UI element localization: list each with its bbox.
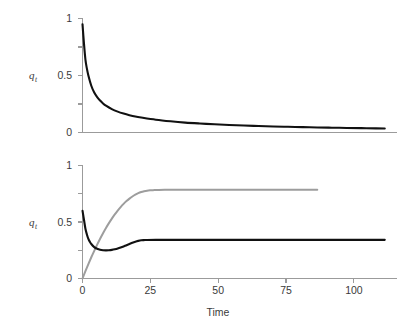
bottom-panel-y-ticks	[78, 166, 83, 279]
bottom-ytick-label-0p5: 0.5	[57, 216, 72, 228]
bottom-panel-x-axis-title: Time	[207, 306, 230, 318]
top-panel-y-ticks	[78, 19, 83, 133]
bottom-xtick-label-100: 100	[345, 284, 363, 296]
bottom-xtick-label-25: 25	[144, 284, 156, 296]
top-ytick-label-0: 0	[66, 126, 72, 138]
top-ylabel-subscript-t: t	[35, 75, 38, 84]
top-panel: 1 0.5 0 q t	[29, 12, 397, 138]
two-panel-line-chart: 1 0.5 0 q t 1	[0, 0, 407, 326]
bottom-ytick-label-1: 1	[66, 159, 72, 171]
top-panel-series-black	[83, 24, 385, 128]
top-ytick-label-0p5: 0.5	[57, 69, 72, 81]
bottom-ytick-label-0: 0	[66, 272, 72, 284]
top-panel-y-axis-title: q t	[29, 69, 38, 84]
bottom-xtick-label-50: 50	[212, 284, 224, 296]
bottom-panel-x-ticks	[83, 279, 354, 284]
bottom-ylabel-subscript-t: t	[35, 222, 38, 231]
bottom-xtick-label-0: 0	[80, 284, 86, 296]
bottom-panel-series-black	[83, 211, 385, 251]
bottom-panel-series-gray	[83, 190, 318, 279]
figure-container: 1 0.5 0 q t 1	[0, 0, 407, 326]
bottom-panel-y-axis-title: q t	[29, 216, 38, 231]
bottom-panel: 1 0.5 0 q t 0 25 50 75 100 Time	[29, 159, 397, 318]
bottom-xtick-label-75: 75	[280, 284, 292, 296]
top-ytick-label-1: 1	[66, 12, 72, 24]
